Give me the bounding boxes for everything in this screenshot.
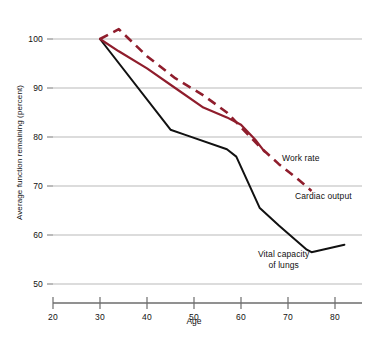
x-tick-label-20: 20	[40, 312, 66, 322]
series-label-cardiac-output: Cardiac output	[295, 191, 352, 202]
series-label-vital-capacity: Vital capacity of lungs	[258, 249, 309, 271]
series-line-cardiac-output	[100, 29, 312, 191]
x-tick-label-40: 40	[134, 312, 160, 322]
series-label-work-rate: Work rate	[282, 153, 320, 164]
series-line-vital-capacity	[100, 39, 344, 252]
x-tick-label-60: 60	[228, 312, 254, 322]
series-label-vital-capacity-line2: of lungs	[268, 260, 299, 270]
x-tick-label-30: 30	[87, 312, 113, 322]
y-tick-marks	[47, 39, 53, 284]
x-axis-title: Age	[166, 316, 222, 326]
y-tick-label-50: 50	[17, 279, 43, 289]
y-tick-label-100: 100	[17, 34, 43, 44]
x-tick-label-80: 80	[322, 312, 348, 322]
line-chart: 100 90 80 70 60 50 20 30 40 50 60 70 80 …	[0, 0, 380, 339]
y-axis-title: Average function remaining (percent)	[15, 78, 24, 228]
y-tick-label-60: 60	[17, 230, 43, 240]
x-tick-label-70: 70	[275, 312, 301, 322]
series-label-vital-capacity-line1: Vital capacity	[258, 249, 309, 259]
plot-area	[0, 0, 380, 339]
